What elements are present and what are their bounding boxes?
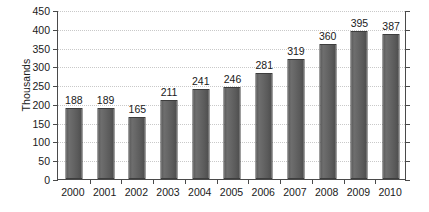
y-axis-tick-label: 400 [32, 24, 50, 36]
bar-value-label: 241 [192, 75, 210, 87]
x-axis-tick [344, 179, 345, 184]
x-axis-tick [121, 179, 122, 184]
bar[interactable] [97, 108, 114, 179]
bar-value-label: 189 [97, 94, 115, 106]
y-axis-tick-label: 300 [32, 61, 50, 73]
x-axis-tick [375, 179, 376, 184]
bar-group[interactable]: 281 [248, 11, 280, 179]
bar[interactable] [65, 108, 82, 179]
y-axis-title: Thousands [20, 30, 32, 140]
x-axis-tick [90, 179, 91, 184]
y-axis-tick-label: 250 [32, 80, 50, 92]
bar-value-label: 387 [382, 20, 400, 32]
x-axis-tick [248, 179, 249, 184]
x-axis-tick-label: 2010 [378, 186, 401, 198]
x-axis-tick-label: 2002 [125, 186, 148, 198]
bar-group[interactable]: 165 [121, 11, 153, 179]
bar-group[interactable]: 395 [344, 11, 376, 179]
bar-value-label: 211 [161, 86, 178, 98]
x-axis-tick-label: 2004 [188, 186, 211, 198]
x-axis-tick [312, 179, 313, 184]
x-axis-tick-label: 2000 [61, 186, 84, 198]
bar[interactable] [192, 89, 209, 180]
bar-value-label: 188 [65, 94, 83, 106]
plot-area: 050100150200250300350400450 188189165211… [57, 11, 406, 180]
x-axis-tick-label: 2009 [347, 186, 370, 198]
bar[interactable] [287, 59, 304, 179]
y-axis-tick-label: 150 [32, 118, 50, 130]
bar-group[interactable]: 241 [185, 11, 217, 179]
bar[interactable] [129, 117, 146, 179]
bar[interactable] [351, 31, 368, 179]
x-axis-tick-label: 2003 [156, 186, 179, 198]
y-axis-tick-label: 450 [32, 5, 50, 17]
bar-group[interactable]: 189 [90, 11, 122, 179]
x-axis-tick [280, 179, 281, 184]
y-axis-tick [53, 180, 58, 181]
x-axis-tick-label: 2006 [252, 186, 275, 198]
y-axis-tick-label: 100 [32, 136, 50, 148]
bar-group[interactable]: 188 [58, 11, 90, 179]
bar-group[interactable]: 319 [280, 11, 312, 179]
x-axis-tick [185, 179, 186, 184]
bar-group[interactable]: 211 [153, 11, 185, 179]
bar-value-label: 246 [224, 73, 242, 85]
y-axis-tick-label: 0 [44, 174, 50, 186]
bar[interactable] [224, 87, 241, 179]
x-axis-tick-label: 2007 [283, 186, 306, 198]
bar[interactable] [256, 73, 273, 179]
y-axis-tick-label: 350 [32, 43, 50, 55]
bar[interactable] [161, 100, 178, 179]
bar-value-label: 395 [351, 17, 369, 29]
x-axis-tick-label: 2005 [220, 186, 243, 198]
x-axis-tick [153, 179, 154, 184]
bar-chart: Thousands 050100150200250300350400450 18… [0, 0, 429, 212]
bars-layer: 188189165211241246281319360395387 [58, 11, 405, 179]
bar-value-label: 281 [255, 59, 273, 71]
x-axis-tick-label: 2001 [93, 186, 116, 198]
bar-group[interactable]: 360 [312, 11, 344, 179]
bar[interactable] [319, 44, 336, 179]
bar-group[interactable]: 387 [375, 11, 407, 179]
bar[interactable] [383, 34, 400, 179]
bar-group[interactable]: 246 [217, 11, 249, 179]
x-axis-tick-label: 2008 [315, 186, 338, 198]
bar-value-label: 165 [129, 103, 147, 115]
x-axis-tick [217, 179, 218, 184]
y-axis-tick-right [405, 180, 410, 181]
bar-value-label: 360 [319, 30, 337, 42]
y-axis-tick-label: 50 [38, 155, 50, 167]
bar-value-label: 319 [287, 45, 305, 57]
y-axis-tick-label: 200 [32, 99, 50, 111]
